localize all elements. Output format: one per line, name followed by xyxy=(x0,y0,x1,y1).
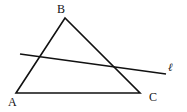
label-a: A xyxy=(8,95,17,109)
label-b: B xyxy=(57,2,65,16)
label-line-l: ℓ xyxy=(168,61,173,73)
line-l xyxy=(20,54,166,74)
label-c: C xyxy=(149,90,157,104)
triangle-diagram: B A C ℓ xyxy=(0,0,187,112)
